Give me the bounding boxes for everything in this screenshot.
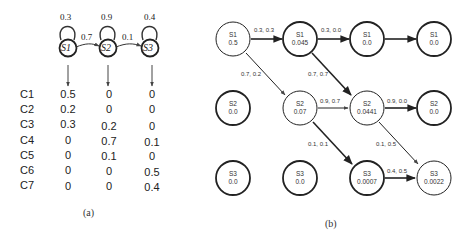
cell: 0 [53,164,83,176]
node-text-c3s1: S10.0 [417,31,451,47]
node-text-c0s1: S10.5 [216,31,250,47]
node-text-c1s3: S30.0 [283,170,317,186]
cell: 0 [137,120,167,132]
diagram-a [60,27,159,87]
node-value: 0.0 [417,39,451,47]
self-loop-label-s3: 0.4 [144,12,155,22]
row-label-c1: C1 [20,88,34,100]
node-state: S3 [350,170,384,178]
self-loop-label-s1: 0.3 [60,12,71,22]
row-label-c5: C5 [20,149,34,161]
edge-label-c1s1-c2s2: 0.7, 0.7 [308,71,328,77]
row-label-c6: C6 [20,164,34,176]
cell: 0.5 [137,166,167,178]
cell: 0.1 [94,150,124,162]
cell: 0 [137,150,167,162]
node-text-c2s3: S30.0007 [350,170,384,186]
edge-label-c2s2-c3s2: 0.9, 0.0 [387,98,407,104]
edge-label-c1s1-c2s1: 0.3, 0.0 [321,27,341,33]
cell: 0 [53,180,83,192]
node-state: S2 [216,100,250,108]
cell: 0.1 [137,136,167,148]
cell: 0 [94,165,124,177]
node-value: 0.0 [283,178,317,186]
cell: 0 [137,103,167,115]
transition-label-s2-s3: 0.1 [122,32,133,42]
node-text-c0s2: S20.0 [216,100,250,116]
state-label-s3: S3 [143,42,153,53]
transition-s2-s3 [116,44,141,47]
state-label-s1: S1 [61,42,71,53]
node-state: S3 [417,170,451,178]
row-label-c2: C2 [20,103,34,115]
node-state: S2 [417,100,451,108]
node-text-c3s3: S30.0022 [417,170,451,186]
node-text-c3s2: S20.0 [417,100,451,116]
node-text-c1s2: S20.07 [283,100,317,116]
caption-a: (a) [83,207,94,218]
self-loop-label-s2: 0.9 [101,12,112,22]
edge-label-c0s1-c1s1: 0.3, 0.3 [254,27,274,33]
edge-label-c1s2-c2s2: 0.9, 0.7 [320,98,340,104]
state-label-s2: S2 [101,42,111,53]
cell: 0.2 [94,120,124,132]
cell: 0 [94,103,124,115]
node-text-c0s3: S30.0 [216,170,250,186]
cell: 0.7 [94,135,124,147]
node-value: 0.0441 [350,108,384,116]
node-value: 0.0022 [417,178,451,186]
cell: 0.2 [53,103,83,115]
node-text-c2s1: S10.0 [350,31,384,47]
node-state: S3 [283,170,317,178]
node-state: S1 [350,31,384,39]
node-state: S2 [350,100,384,108]
node-state: S2 [283,100,317,108]
row-label-c3: C3 [20,118,34,130]
cell: 0 [94,180,124,192]
edge-label-c0s1-c1s2: 0.7, 0.2 [241,71,261,77]
node-value: 0.0 [216,178,250,186]
node-state: S3 [216,170,250,178]
self-loop-s2 [100,27,115,41]
cell: 0 [53,149,83,161]
node-text-c2s2: S20.0441 [350,100,384,116]
node-state: S1 [417,31,451,39]
node-value: 0.5 [216,39,250,47]
self-loop-s3 [142,27,157,41]
cell: 0.3 [53,118,83,130]
cell: 0.4 [137,181,167,193]
node-value: 0.0 [216,108,250,116]
transition-s1-s2 [76,44,99,47]
cell: 0 [137,88,167,100]
node-value: 0.0007 [350,178,384,186]
row-label-c4: C4 [20,134,34,146]
self-loop-s1 [60,27,75,41]
cell: 0 [53,134,83,146]
node-state: S1 [216,31,250,39]
caption-b: (b) [325,218,337,229]
edge-label-c2s2-c3s3: 0.1, 0.5 [376,141,396,147]
node-value: 0.045 [283,39,317,47]
diagram-b-edges [246,39,418,178]
node-text-c1s1: S10.045 [283,31,317,47]
edge-label-c1s2-c2s3: 0.1, 0.1 [308,141,328,147]
transition-label-s1-s2: 0.7 [81,32,92,42]
cell: 0 [94,88,124,100]
node-value: 0.07 [283,108,317,116]
row-label-c7: C7 [20,179,34,191]
cell: 0.5 [53,88,83,100]
node-value: 0.0 [350,39,384,47]
node-state: S1 [283,31,317,39]
node-value: 0.0 [417,108,451,116]
edge-label-c2s3-c3s3: 0.4, 0.5 [387,168,407,174]
